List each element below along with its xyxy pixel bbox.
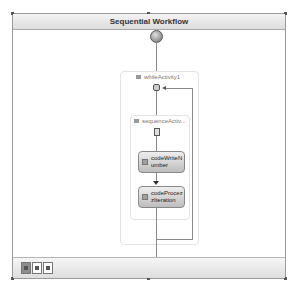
arrow-down-icon <box>153 181 159 185</box>
loop-back-connector <box>157 239 193 240</box>
connector <box>156 208 157 264</box>
code-activity-icon <box>142 194 148 200</box>
while-loop-icon <box>136 75 141 79</box>
loop-back-connector <box>166 88 192 89</box>
connector <box>156 136 157 151</box>
while-activity-label: whileActivity1 <box>136 74 180 80</box>
tab-cancel-handlers-view[interactable] <box>32 262 42 274</box>
start-icon <box>150 30 163 43</box>
fault-handler-icon <box>46 266 50 270</box>
sequence-icon <box>134 119 139 123</box>
workflow-canvas[interactable]: whileActivity1 sequenceActiv... codeWrit… <box>13 30 285 258</box>
tab-fault-handlers-view[interactable] <box>43 262 53 274</box>
sequence-activity-label: sequenceActiv... <box>134 118 186 124</box>
loop-node-icon <box>153 84 160 91</box>
code-activity-write-number[interactable]: codeWriteN umber <box>138 151 185 173</box>
sequence-node-icon <box>154 128 160 136</box>
cancel-handler-icon <box>35 266 39 270</box>
view-switcher-bar <box>13 257 285 278</box>
loop-back-connector <box>192 88 193 239</box>
code-activity-process-iteration[interactable]: codeProcez zIteration <box>138 186 185 208</box>
workflow-view-icon <box>24 266 28 270</box>
tab-workflow-view[interactable] <box>21 262 31 274</box>
workflow-designer: Sequential Workflow whileActivity1 seque… <box>12 13 286 279</box>
connector <box>156 43 157 71</box>
workflow-title: Sequential Workflow <box>13 14 285 30</box>
connector <box>156 91 157 115</box>
code-activity-icon <box>142 159 148 165</box>
